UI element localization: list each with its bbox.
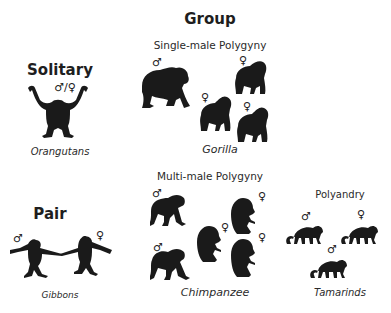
male-symbol: ♂ — [301, 211, 311, 222]
gorilla-female-silhouette — [232, 58, 268, 96]
chimpanzee-female-silhouette — [229, 237, 259, 279]
species-label-gibbons: Gibbons — [30, 290, 90, 300]
chimpanzee-female-silhouette — [229, 196, 259, 236]
species-label-gorilla: Gorilla — [180, 143, 260, 156]
female-symbol: ♀ — [357, 209, 365, 220]
male-symbol: ♂ — [327, 244, 337, 255]
species-label-chimpanzee: Chimpanzee — [170, 286, 260, 299]
female-symbol: ♀ — [258, 232, 266, 243]
female-symbol: ♀ — [258, 191, 266, 202]
tamarin-male-silhouette — [307, 256, 349, 280]
orangutan-silhouette — [26, 82, 90, 142]
chimpanzee-female-silhouette — [195, 224, 225, 264]
multi-male-polygyny-heading: Multi-male Polygyny — [140, 170, 280, 182]
gorilla-female-silhouette — [197, 93, 233, 133]
tamarin-female-silhouette — [338, 222, 380, 246]
group-heading: Group — [160, 10, 260, 28]
solitary-heading: Solitary — [10, 61, 110, 79]
single-male-polygyny-heading: Single-male Polygyny — [140, 39, 280, 51]
chimpanzee-male-silhouette — [148, 192, 190, 228]
polyandry-heading: Polyandry — [300, 189, 380, 200]
gibbon-male-silhouette — [8, 234, 64, 280]
species-label-tamarinds: Tamarinds — [305, 287, 375, 298]
tamarin-male-silhouette — [283, 222, 325, 246]
gorilla-male-silhouette — [138, 64, 194, 110]
chimpanzee-male-silhouette — [148, 244, 194, 282]
pair-heading: Pair — [10, 205, 90, 223]
gorilla-female-silhouette — [234, 104, 270, 144]
species-label-orangutans: Orangutans — [20, 146, 100, 157]
gibbon-female-silhouette — [58, 232, 114, 278]
